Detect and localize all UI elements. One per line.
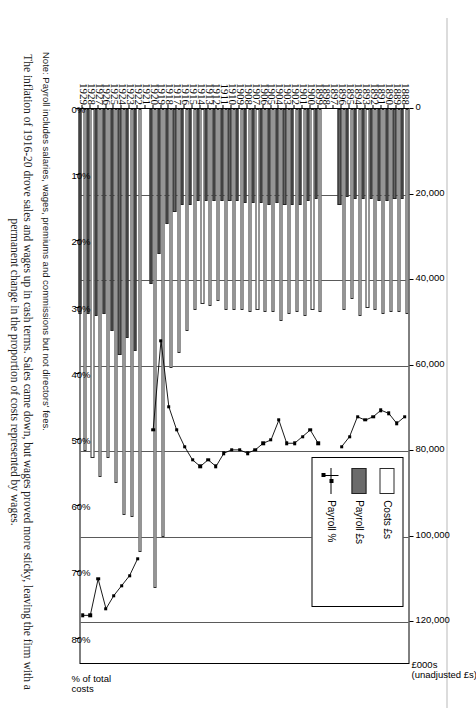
data-point-payroll-percent — [135, 557, 138, 560]
data-point-payroll-percent — [269, 438, 272, 441]
data-point-payroll-percent — [214, 465, 217, 468]
primary-axis-ticklabel: 100,000 — [415, 529, 449, 540]
data-point-payroll-percent — [190, 458, 193, 461]
legend-label-percent: Payroll % — [325, 500, 336, 542]
page-rule — [446, 18, 447, 708]
data-point-payroll-percent — [198, 465, 201, 468]
secondary-axis-title: % of totalcosts — [71, 674, 111, 694]
data-point-payroll-percent — [300, 435, 303, 438]
data-point-payroll-percent — [402, 415, 405, 418]
note-payroll-definition: Note: Payroll includes salaries, wages, … — [40, 52, 51, 692]
primary-axis-tick — [409, 108, 413, 109]
legend-swatch-costs — [379, 468, 394, 494]
data-point-payroll-percent — [253, 448, 256, 451]
secondary-axis-ticklabel: 10% — [71, 170, 90, 181]
primary-axis-tick — [409, 279, 413, 280]
secondary-axis-ticklabel: 0% — [71, 104, 85, 115]
primary-axis-ticklabel: 120,000 — [415, 614, 449, 625]
primary-axis-ticklabel: 40,000 — [415, 272, 444, 283]
data-point-payroll-percent — [261, 442, 264, 445]
legend-label-costs: Costs £s — [381, 500, 392, 539]
primary-axis-title: £000s(unadjusted £s) — [411, 660, 476, 680]
legend-item-percent: Payroll % — [323, 468, 338, 542]
secondary-axis-ticklabel: 50% — [71, 435, 90, 446]
data-point-payroll-percent — [316, 442, 319, 445]
data-point-payroll-percent — [285, 442, 288, 445]
primary-axis-ticklabel: 0 — [415, 101, 420, 112]
data-point-payroll-percent — [340, 445, 343, 448]
data-point-payroll-percent — [159, 339, 162, 342]
primary-axis-ticklabel: 20,000 — [415, 187, 444, 198]
primary-axis-tick — [409, 450, 413, 451]
data-point-payroll-percent — [379, 408, 382, 411]
data-point-payroll-percent — [88, 614, 91, 617]
data-point-payroll-percent — [355, 415, 358, 418]
data-point-payroll-percent — [112, 594, 115, 597]
secondary-axis-ticklabel: 70% — [71, 567, 90, 578]
data-point-payroll-percent — [104, 607, 107, 610]
legend-swatch-payroll — [351, 468, 366, 494]
chart-legend: Costs £sPayroll £sPayroll % — [311, 457, 403, 607]
secondary-axis-ticklabel: 40% — [71, 369, 90, 380]
data-point-payroll-percent — [387, 412, 390, 415]
secondary-axis-ticklabel: 20% — [71, 236, 90, 247]
primary-axis-ticklabel: 60,000 — [415, 358, 444, 369]
plot-area: 1888188918901891189218931894189518961897… — [79, 108, 409, 664]
data-point-payroll-percent — [80, 614, 83, 617]
primary-axis-tick — [409, 621, 413, 622]
legend-item-payroll: Payroll £s — [351, 468, 366, 544]
secondary-axis-ticklabel: 60% — [71, 501, 90, 512]
plot-container: 020,00040,00060,00080,000100,000120,000£… — [15, 40, 439, 688]
data-point-payroll-percent — [277, 418, 280, 421]
data-point-payroll-percent — [206, 458, 209, 461]
primary-axis-tick — [409, 536, 413, 537]
data-point-payroll-percent — [245, 451, 248, 454]
primary-axis-ticklabel: 80,000 — [415, 443, 444, 454]
primary-value-axis: 020,00040,00060,00080,000100,000120,000£… — [409, 40, 439, 688]
data-point-payroll-percent — [175, 428, 178, 431]
data-point-payroll-percent — [363, 418, 366, 421]
data-point-payroll-percent — [230, 448, 233, 451]
secondary-axis-ticklabel: 30% — [71, 303, 90, 314]
data-point-payroll-percent — [237, 448, 240, 451]
data-point-payroll-percent — [182, 445, 185, 448]
primary-axis-tick — [409, 365, 413, 366]
data-point-payroll-percent — [292, 442, 295, 445]
data-point-payroll-percent — [151, 428, 154, 431]
data-point-payroll-percent — [127, 574, 130, 577]
secondary-axis-ticklabel: 80% — [71, 634, 90, 645]
data-point-payroll-percent — [167, 405, 170, 408]
legend-item-costs: Costs £s — [379, 468, 394, 539]
data-point-payroll-percent — [96, 577, 99, 580]
data-point-payroll-percent — [222, 451, 225, 454]
note-inflation-commentary: The inflation of 1916-20 drove sales and… — [7, 52, 33, 692]
data-point-payroll-percent — [371, 415, 374, 418]
data-point-payroll-percent — [308, 428, 311, 431]
data-point-payroll-percent — [395, 422, 398, 425]
primary-axis-tick — [409, 194, 413, 195]
legend-label-payroll: Payroll £s — [353, 500, 364, 544]
data-point-payroll-percent — [347, 435, 350, 438]
data-point-payroll-percent — [120, 584, 123, 587]
legend-swatch-percent — [323, 468, 338, 494]
